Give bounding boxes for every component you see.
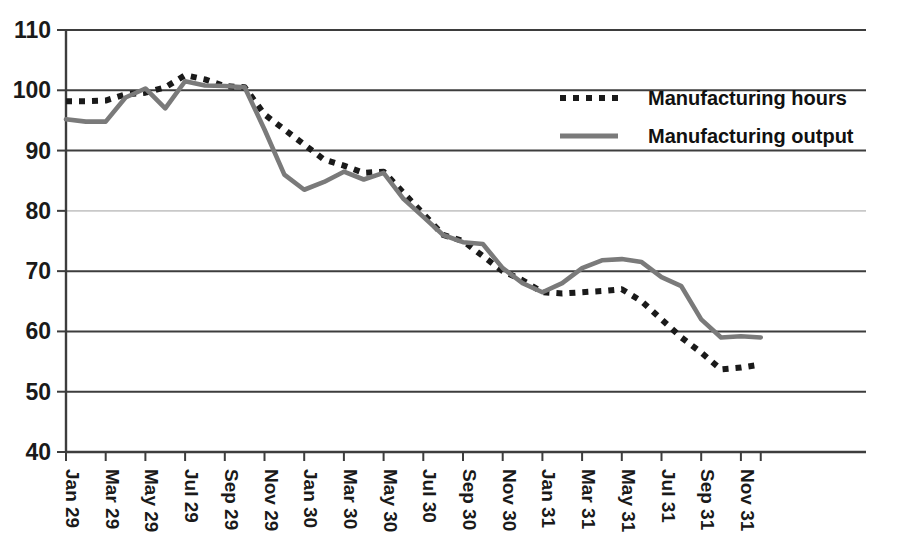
x-tick-label: Mar 30 — [340, 469, 361, 529]
y-tick-label: 50 — [25, 379, 51, 405]
x-axis — [66, 452, 866, 461]
x-tick-label: Nov 30 — [499, 469, 520, 531]
x-tick-label: Sep 29 — [221, 469, 242, 530]
y-tick-label: 110 — [14, 17, 51, 43]
series-line — [66, 81, 761, 337]
x-tick-label: Nov 29 — [261, 469, 282, 531]
y-tick-label: 100 — [13, 77, 51, 103]
series-lines — [66, 75, 761, 369]
legend-label: Manufacturing output — [648, 125, 854, 147]
y-tick-label: 70 — [25, 258, 51, 284]
x-tick-label: Mar 29 — [102, 469, 123, 529]
x-tick-label: Jan 29 — [62, 469, 83, 528]
y-tick-label: 40 — [25, 439, 51, 465]
series-line — [66, 75, 761, 369]
x-tick-label: Nov 31 — [737, 469, 758, 532]
chart-container: 110100908070605040 Jan 29Mar 29May 29Jul… — [0, 0, 897, 540]
y-tick-labels: 110100908070605040 — [13, 17, 66, 465]
x-tick-label: Jan 30 — [300, 469, 321, 528]
y-tick-label: 80 — [25, 198, 51, 224]
line-chart: 110100908070605040 Jan 29Mar 29May 29Jul… — [0, 0, 897, 540]
y-tick-label: 60 — [25, 318, 51, 344]
legend-label: Manufacturing hours — [648, 87, 847, 109]
x-tick-label: Jul 30 — [419, 469, 440, 523]
chart-legend: Manufacturing hoursManufacturing output — [560, 87, 854, 147]
x-tick-label: May 30 — [380, 469, 401, 532]
x-tick-labels: Jan 29Mar 29May 29Jul 29Sep 29Nov 29Jan … — [62, 469, 758, 533]
x-tick-label: Sep 30 — [459, 469, 480, 530]
x-tick-label: May 31 — [618, 469, 639, 533]
x-tick-label: Mar 31 — [578, 469, 599, 530]
x-tick-label: Jul 31 — [658, 469, 679, 523]
x-tick-label: Jul 29 — [181, 469, 202, 523]
x-tick-label: Jan 31 — [538, 469, 559, 529]
x-tick-label: Sep 31 — [697, 469, 718, 531]
x-tick-label: May 29 — [141, 469, 162, 532]
y-tick-label: 90 — [25, 138, 51, 164]
